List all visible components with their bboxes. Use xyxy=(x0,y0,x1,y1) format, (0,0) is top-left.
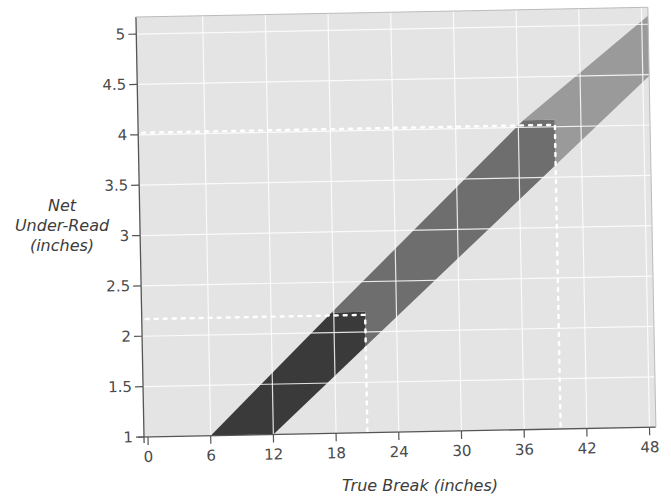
y-axis-title-line-3: (inches) xyxy=(2,236,122,256)
x-tick-label: 24 xyxy=(389,443,408,461)
plot-background xyxy=(136,7,656,437)
x-tick-label: 42 xyxy=(577,439,596,457)
y-axis-title-line-1: Net xyxy=(2,196,122,216)
y-tick-label: 2.5 xyxy=(106,277,130,295)
y-tick-label: 1 xyxy=(123,428,133,446)
y-tick-label: 2 xyxy=(121,327,131,345)
x-tick-label: 30 xyxy=(452,442,471,460)
x-axis-title: True Break (inches) xyxy=(300,476,540,495)
y-tick-label: 4 xyxy=(117,126,127,144)
x-tick-label: 48 xyxy=(640,438,659,456)
plot-area: 0612182430364248 11.522.533.544.55 xyxy=(101,4,671,467)
y-tick-label: 1.5 xyxy=(108,378,132,396)
y-tick-label: 5 xyxy=(116,25,126,43)
y-axis-title: Net Under-Read (inches) xyxy=(2,196,122,256)
y-tick-label: 4.5 xyxy=(102,76,126,94)
x-tick-label: 18 xyxy=(327,444,346,462)
x-tick-label: 36 xyxy=(515,441,534,459)
y-tick-label: 3.5 xyxy=(104,176,128,194)
x-tick-label: 12 xyxy=(264,445,283,463)
x-tick-label: 0 xyxy=(143,448,153,466)
y-axis-title-line-2: Under-Read xyxy=(2,216,122,236)
x-tick-label: 6 xyxy=(206,447,216,465)
